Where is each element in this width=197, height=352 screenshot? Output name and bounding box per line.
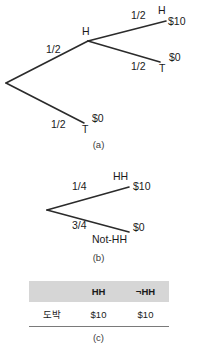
payoff-table-body: 도박 $10 $10	[29, 302, 169, 327]
payoff-table: HH ¬HH 도박 $10 $10	[29, 281, 169, 327]
figure-c-payoff-table: HH ¬HH 도박 $10 $10 (c)	[0, 270, 197, 352]
payoff-table-cell-gamble-not-hh: $10	[122, 302, 169, 327]
branch-hh-line	[47, 187, 129, 210]
figure-b-caption: (b)	[0, 252, 197, 263]
branch-not-hh-probability: 3/4	[72, 220, 87, 231]
branch-root-to-h-outcome: H	[82, 26, 90, 37]
payoff-table-head: HH ¬HH	[29, 281, 169, 302]
branch-h-to-ht-outcome: T	[159, 63, 165, 74]
branch-not-hh-line	[47, 210, 129, 232]
figure-a-caption: (a)	[0, 139, 197, 150]
figure-b-collapsed-tree: 1/4 HH $10 3/4 Not-HH $0 (b)	[0, 158, 197, 270]
branch-root-to-t-outcome: T	[82, 124, 88, 135]
branch-h-to-ht-payoff: $0	[169, 52, 181, 63]
branch-root-to-h-probability: 1/2	[46, 44, 61, 55]
branch-root-to-t-payoff: $0	[92, 113, 104, 124]
figure-a-probability-tree: 1/2 H 1/2 H $10 1/2 T $0 1/2 T $0 (a)	[0, 0, 197, 158]
figure-c-caption: (c)	[0, 332, 197, 343]
payoff-table-wrapper: HH ¬HH 도박 $10 $10	[29, 281, 169, 327]
payoff-table-header-not-hh: ¬HH	[122, 281, 169, 302]
branch-root-to-t-probability: 1/2	[51, 119, 66, 130]
branch-h-to-ht-line	[88, 41, 160, 62]
table-row: 도박 $10 $10	[29, 302, 169, 327]
payoff-table-cell-gamble-hh: $10	[75, 302, 122, 327]
payoff-table-header-hh: HH	[75, 281, 122, 302]
payoff-table-row-label-gamble: 도박	[29, 302, 75, 327]
branch-hh-outcome: HH	[113, 171, 128, 182]
branch-h-to-hh-line	[88, 21, 166, 41]
branch-not-hh-payoff: $0	[133, 222, 145, 233]
payoff-table-header-row: HH ¬HH	[29, 281, 169, 302]
branch-h-to-hh-payoff: $10	[168, 16, 186, 27]
branch-hh-payoff: $10	[133, 181, 151, 192]
branch-h-to-ht-probability: 1/2	[131, 61, 146, 72]
branch-not-hh-outcome: Not-HH	[92, 234, 127, 245]
branch-root-to-t-line	[6, 83, 84, 123]
payoff-table-corner-header	[29, 281, 75, 302]
branch-hh-probability: 1/4	[72, 181, 87, 192]
branch-h-to-hh-outcome: H	[158, 5, 166, 16]
branch-h-to-hh-probability: 1/2	[131, 10, 146, 21]
